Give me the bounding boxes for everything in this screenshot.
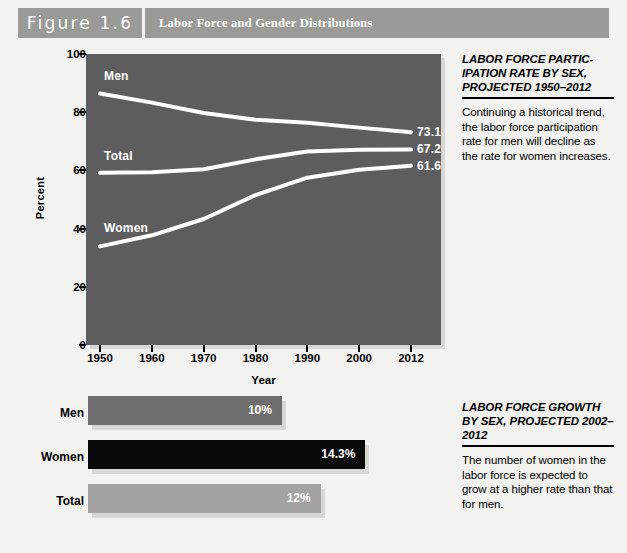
- x-tick-mark: [358, 345, 360, 352]
- side-panel-participation: LABOR FORCE PARTIC-IPATION RATE BY SEX, …: [462, 52, 614, 163]
- bar-value-label: 14.3%: [303, 440, 355, 469]
- bar-value-label: 10%: [220, 396, 272, 425]
- x-tick-mark: [151, 345, 153, 352]
- y-tick-mark: [79, 344, 86, 346]
- bar-chart: Men10%Women14.3%Total12%: [18, 396, 448, 531]
- bar-value-label: 12%: [259, 484, 311, 513]
- figure-title: Labor Force and Gender Distributions: [159, 16, 372, 31]
- bar-category-label: Men: [18, 396, 84, 430]
- side-panel-heading: LABOR FORCE GROWTH BY SEX, PROJECTED 200…: [462, 400, 614, 447]
- bar-category-label: Total: [18, 484, 84, 518]
- x-axis-title: Year: [86, 374, 441, 386]
- bar-row: Total12%: [18, 484, 448, 518]
- figure-number-label: Figure 1.6: [27, 13, 133, 33]
- y-tick-mark: [79, 169, 86, 171]
- figure-container: Figure 1.6 Labor Force and Gender Distri…: [0, 0, 627, 553]
- x-tick-mark: [410, 345, 412, 352]
- plot-area: [86, 54, 441, 345]
- series-end-value-men: 73.1: [417, 125, 441, 139]
- y-tick-mark: [79, 286, 86, 288]
- y-tick-mark: [79, 53, 86, 55]
- x-tick-mark: [203, 345, 205, 352]
- side-panel-body: Continuing a historical trend, the labor…: [462, 99, 614, 163]
- figure-number-tab: Figure 1.6: [18, 8, 142, 38]
- figure-header: Figure 1.6 Labor Force and Gender Distri…: [18, 8, 609, 38]
- series-label-men: Men: [104, 69, 129, 83]
- y-tick-mark: [79, 228, 86, 230]
- x-tick-mark: [99, 345, 101, 352]
- bar-row: Women14.3%: [18, 440, 448, 474]
- y-tick-mark: [79, 111, 86, 113]
- bar-row: Men10%: [18, 396, 448, 430]
- series-label-total: Total: [104, 149, 133, 163]
- side-panel-heading: LABOR FORCE PARTIC-IPATION RATE BY SEX, …: [462, 52, 614, 99]
- series-end-value-total: 67.2: [417, 142, 441, 156]
- side-panel-body: The number of women in the labor force i…: [462, 447, 614, 511]
- line-series-men: [100, 94, 411, 133]
- x-tick-label: 2012: [381, 352, 441, 364]
- series-label-women: Women: [104, 221, 148, 235]
- line-series-svg: [86, 54, 441, 345]
- line-chart: Percent 020406080100 1950196019701980199…: [18, 52, 448, 382]
- series-end-value-women: 61.6: [417, 159, 441, 173]
- side-panel-growth: LABOR FORCE GROWTH BY SEX, PROJECTED 200…: [462, 400, 614, 511]
- x-tick-mark: [306, 345, 308, 352]
- figure-title-bar: Labor Force and Gender Distributions: [145, 8, 609, 38]
- bar-category-label: Women: [18, 440, 84, 474]
- x-tick-mark: [255, 345, 257, 352]
